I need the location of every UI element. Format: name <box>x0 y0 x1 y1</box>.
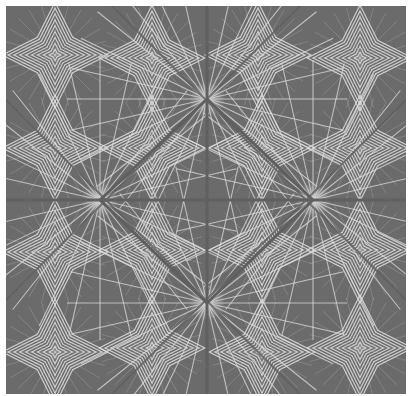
starburst-pattern-graphic <box>6 6 406 394</box>
wallpaper-pattern <box>6 6 406 394</box>
